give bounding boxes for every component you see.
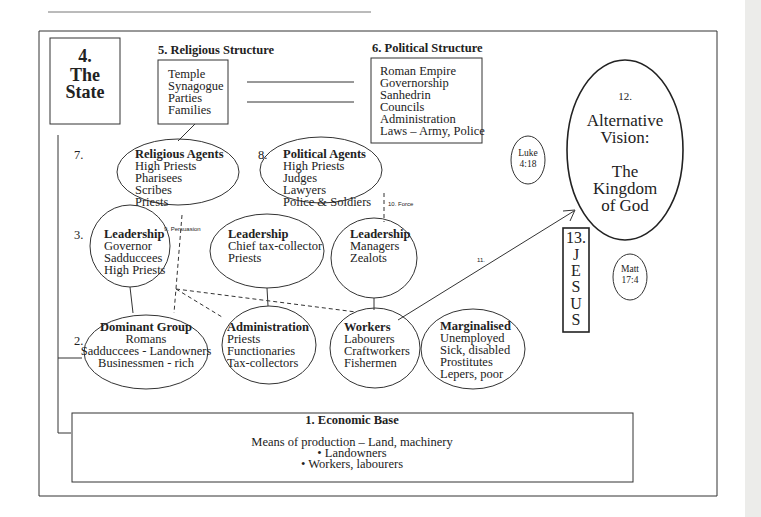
workers-item: Fishermen bbox=[344, 356, 398, 370]
state-box: 4. The State bbox=[50, 38, 120, 124]
jesus-letter: J bbox=[573, 246, 579, 263]
luke-ref: 4:18 bbox=[520, 159, 537, 169]
dominant-group-ellipse: Dominant Group Romans Sadduccees - Lando… bbox=[81, 315, 212, 389]
religious-agents-ellipse: Religious Agents High Priests Pharisees … bbox=[117, 139, 239, 209]
jesus-letter: S bbox=[572, 278, 581, 295]
matt-ref: Matt bbox=[621, 264, 639, 274]
persuasion-to-workers-connector bbox=[176, 289, 356, 312]
luke-reference-ellipse: Luke 4:18 bbox=[511, 136, 545, 184]
luke-ref: Luke bbox=[518, 148, 538, 158]
political-structure-box: Roman Empire Governorship Sanhedrin Coun… bbox=[371, 58, 485, 143]
matt-reference-ellipse: Matt 17:4 bbox=[613, 254, 647, 300]
jesus-letter: E bbox=[571, 262, 581, 279]
state-number: 4. bbox=[78, 46, 92, 66]
economic-base-line: • Workers, labourers bbox=[301, 457, 403, 471]
persuasion-to-administration-connector bbox=[176, 289, 222, 317]
administration-ellipse: Administration Priests Functionaries Tax… bbox=[222, 306, 316, 384]
religious-structure-box: Temple Synagogue Parties Families bbox=[158, 60, 228, 124]
marginalised-ellipse: Marginalised Unemployed Sick, disabled P… bbox=[421, 309, 525, 389]
jesus-letter: U bbox=[570, 295, 582, 312]
structure-to-agents-link bbox=[178, 124, 195, 141]
leadership-managers-ellipse: Leadership Managers Zealots bbox=[331, 218, 417, 298]
leadership-tax-ellipse: Leadership Chief tax-collector Priests bbox=[210, 214, 324, 288]
political-agents-ellipse: Political Agents High Priests Judges Law… bbox=[260, 137, 382, 209]
political-structure-title: 6. Political Structure bbox=[372, 41, 483, 55]
leadership-to-dominant-link bbox=[130, 287, 133, 313]
religious-agents-item: Priests bbox=[135, 195, 168, 209]
label-three: 3. bbox=[74, 228, 83, 242]
label-seven: 7. bbox=[74, 148, 83, 162]
leadership-governor-ellipse: Leadership Governor Sadduccees High Prie… bbox=[90, 205, 170, 287]
jesus-number: 13. bbox=[566, 229, 586, 246]
economic-base-box: 1. Economic Base Means of production – L… bbox=[72, 413, 633, 482]
religious-structure-item: Families bbox=[168, 103, 211, 117]
persuasion-label: 9. Persuasion bbox=[164, 226, 201, 232]
vision-line: of God bbox=[601, 196, 649, 215]
workers-to-kingdom-arrow: 11. bbox=[398, 210, 575, 320]
jesus-letter: S bbox=[572, 311, 581, 328]
state-bracket bbox=[58, 135, 71, 433]
alternative-vision-ellipse: 12. Alternative Vision: The Kingdom of G… bbox=[567, 60, 683, 240]
state-line: State bbox=[66, 82, 105, 102]
administration-item: Tax-collectors bbox=[227, 356, 298, 370]
leadership-item: Priests bbox=[228, 251, 261, 265]
jesus-box: 13. J E S U S bbox=[563, 228, 589, 332]
economic-base-title: 1. Economic Base bbox=[305, 413, 399, 427]
vision-number: 12. bbox=[618, 90, 632, 102]
arrow-label-eleven: 11. bbox=[477, 257, 485, 263]
political-structure-item: Laws – Army, Police bbox=[380, 124, 485, 138]
vision-line: Vision: bbox=[600, 128, 649, 147]
workers-ellipse: Workers Labourers Craftworkers Fishermen bbox=[330, 308, 420, 388]
marginalised-item: Lepers, poor bbox=[440, 367, 504, 381]
social-structure-diagram: 4. The State 5. Religious Structure Temp… bbox=[0, 0, 761, 517]
political-agents-item: Police & Soldiers bbox=[283, 195, 371, 209]
religious-structure-title: 5. Religious Structure bbox=[158, 43, 275, 57]
matt-ref: 17:4 bbox=[622, 275, 639, 285]
leadership-item: High Priests bbox=[104, 263, 166, 277]
force-label: 10. Force bbox=[388, 201, 414, 207]
dominant-group-item: Businessmen - rich bbox=[98, 356, 195, 370]
leadership-to-administration-link bbox=[267, 288, 268, 306]
leadership-item: Zealots bbox=[350, 251, 387, 265]
